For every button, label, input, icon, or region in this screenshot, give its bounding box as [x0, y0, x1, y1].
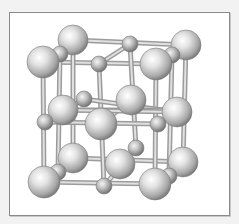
large-atom [139, 168, 171, 200]
large-atom [27, 46, 59, 78]
crystal-lattice-diagram [0, 0, 239, 224]
large-atom [85, 108, 117, 140]
small-atom [122, 36, 138, 52]
large-atom [116, 85, 146, 115]
large-atom [140, 48, 172, 80]
small-atom [76, 91, 92, 107]
large-atom [28, 166, 60, 198]
small-atom [37, 114, 53, 130]
small-atom [150, 116, 166, 132]
large-atom [105, 149, 135, 179]
large-atom [162, 97, 192, 127]
small-atom [96, 178, 112, 194]
small-atom [91, 56, 107, 72]
